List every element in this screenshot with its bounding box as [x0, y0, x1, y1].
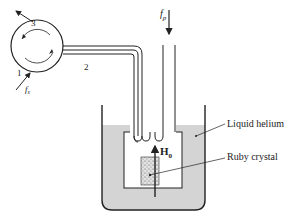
liquid-helium-label: Liquid helium: [227, 118, 284, 129]
signal-input-label: fs: [25, 84, 31, 95]
circulator: [11, 20, 63, 72]
maser-diagram: fp H0 Liquid helium Ruby crystal 3 1 2 f…: [0, 0, 298, 217]
port-1-label: 1: [17, 68, 22, 78]
port-3-label: 3: [31, 18, 36, 28]
ruby-crystal-label: Ruby crystal: [227, 151, 278, 162]
ruby-crystal: [141, 157, 159, 185]
pump-label: fp: [160, 8, 167, 22]
port-2-label: 2: [84, 62, 89, 72]
